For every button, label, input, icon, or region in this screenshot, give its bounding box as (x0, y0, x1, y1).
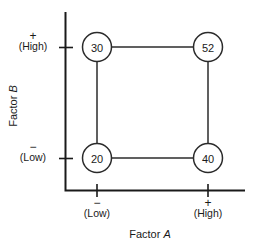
node-value-top-right: 52 (202, 42, 214, 54)
factorial-design-figure: 30 52 20 40 + (High) − (Low) − (Low) + (… (0, 0, 253, 249)
y-axis-word-high: (High) (10, 41, 56, 52)
x-axis-label-high: + (High) (178, 197, 238, 219)
y-axis-title-symbol: B (7, 85, 19, 92)
y-axis-title-prefix: Factor (7, 96, 19, 127)
x-axis-word-low: (Low) (67, 208, 127, 219)
x-axis-label-low: − (Low) (67, 197, 127, 219)
y-axis-label-high: + (High) (10, 30, 56, 52)
node-value-top-left: 30 (91, 42, 103, 54)
y-axis-title: Factor B (7, 71, 19, 141)
y-axis-word-low: (Low) (10, 152, 56, 163)
x-axis-title-symbol: A (163, 228, 170, 240)
data-point-top-right[interactable]: 52 (194, 33, 223, 62)
node-value-bottom-right: 40 (202, 153, 214, 165)
data-point-top-left[interactable]: 30 (83, 33, 112, 62)
node-value-bottom-left: 20 (91, 153, 103, 165)
y-axis-label-low: − (Low) (10, 141, 56, 163)
x-axis-title: Factor A (95, 228, 205, 240)
x-axis-word-high: (High) (178, 208, 238, 219)
x-axis-title-prefix: Factor (129, 228, 160, 240)
data-point-bottom-left[interactable]: 20 (83, 144, 112, 173)
data-point-bottom-right[interactable]: 40 (194, 144, 223, 173)
